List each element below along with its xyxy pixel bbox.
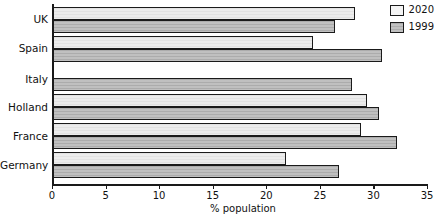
bar-spain-1999: [52, 49, 382, 62]
legend-entry-1999: 1999: [390, 20, 434, 34]
bar-chart: UK Spain Italy Holland France Germany 0 …: [0, 0, 438, 217]
x-tick-15: [213, 184, 214, 189]
plot-area: [52, 4, 427, 184]
legend-label-2020: 2020: [409, 4, 434, 16]
x-tick-20: [266, 184, 267, 189]
x-axis-title-text: % population: [210, 203, 276, 215]
x-tick-30: [373, 184, 374, 189]
x-tick-label-15: 15: [206, 190, 219, 202]
x-tick-label-30: 30: [367, 190, 380, 202]
x-tick-10: [159, 184, 160, 189]
x-tick-5: [106, 184, 107, 189]
category-label-spain: Spain: [0, 42, 48, 54]
legend-label-1999: 1999: [409, 21, 434, 33]
x-tick-0: [52, 184, 53, 189]
category-label-italy: Italy: [0, 73, 48, 85]
bar-italy-1999: [52, 78, 352, 91]
bar-france-1999: [52, 136, 397, 149]
bar-holland-1999: [52, 107, 379, 120]
x-tick-label-25: 25: [314, 190, 327, 202]
legend-entry-2020: 2020: [390, 3, 434, 17]
category-label-uk: UK: [0, 13, 48, 25]
legend-swatch-1999-icon: [390, 22, 404, 33]
bar-germany-2020: [52, 152, 286, 165]
bar-france-2020: [52, 123, 361, 136]
bar-holland-2020: [52, 94, 367, 107]
x-axis-title: % population: [0, 203, 438, 215]
legend-swatch-2020-icon: [390, 5, 404, 16]
category-label-france: France: [0, 130, 48, 142]
bar-spain-2020: [52, 36, 313, 49]
x-tick-25: [320, 184, 321, 189]
x-tick-35: [427, 184, 428, 189]
category-label-holland: Holland: [0, 101, 48, 113]
x-tick-label-35: 35: [421, 190, 434, 202]
y-axis-line: [52, 4, 54, 184]
x-tick-label-5: 5: [102, 190, 108, 202]
category-label-germany: Germany: [0, 159, 48, 171]
x-tick-label-0: 0: [49, 190, 55, 202]
bar-germany-1999: [52, 165, 339, 178]
bar-uk-1999: [52, 20, 335, 33]
x-tick-label-10: 10: [153, 190, 166, 202]
x-axis-line: [52, 184, 427, 186]
legend: 2020 1999: [390, 3, 434, 37]
bar-uk-2020: [52, 7, 355, 20]
x-tick-label-20: 20: [260, 190, 273, 202]
